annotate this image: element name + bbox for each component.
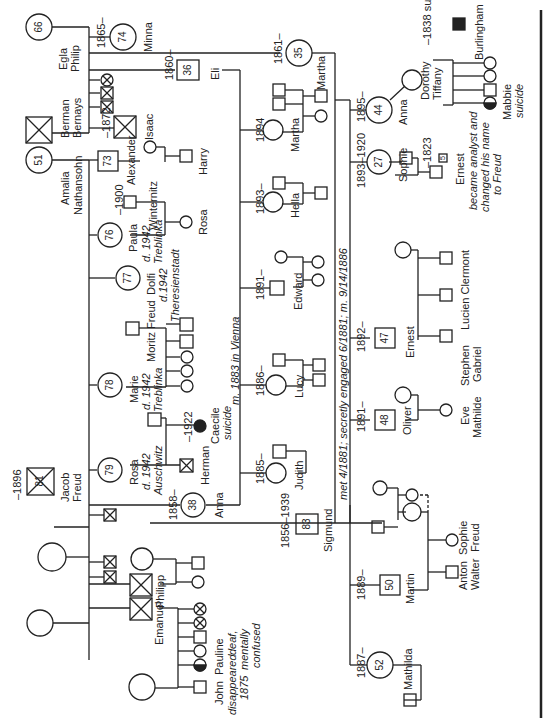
- label-walter: Walter: [470, 559, 481, 590]
- label-paula: Paula: [128, 224, 139, 252]
- age-dolfi: 77: [123, 272, 133, 283]
- label-tiffany: Tiffany: [432, 68, 443, 100]
- age-jacob: 81: [35, 475, 45, 486]
- label-marie: Marie: [129, 375, 140, 403]
- note-caecile: suicide: [222, 406, 233, 440]
- label-harry: Harry: [198, 148, 209, 175]
- age-mathilda: 52: [375, 659, 385, 670]
- years-anna-f: 1858–: [168, 489, 179, 520]
- sigmund-marriage-note: met 4/1881; secretly engaged 6/1881; m. …: [338, 248, 349, 500]
- label-isaac: Isaac: [144, 114, 155, 140]
- note-paula-2: Treblinka: [153, 220, 164, 264]
- years-martha: 1861–: [273, 33, 284, 64]
- label-martha: Martha: [316, 56, 327, 90]
- label-john: John: [214, 681, 225, 705]
- age-alexander: 73: [103, 155, 113, 166]
- years-winternitz: –1900: [114, 184, 125, 215]
- years-edward: 1891–: [255, 269, 266, 300]
- years-eli: 1860–: [164, 49, 175, 80]
- label-clermont: Lucien Clermont: [460, 250, 471, 330]
- label-freud: Freud: [72, 473, 83, 502]
- note-john-1: disappeared: [227, 654, 238, 715]
- note-pauline-1: deaf,: [227, 631, 238, 655]
- years-minna: 1865–: [96, 17, 107, 48]
- years-sigmund: 1856–1939: [280, 493, 291, 548]
- label-gabriel: Gabriel: [472, 347, 483, 382]
- label-amalia: Amalia: [60, 171, 71, 205]
- label-pauline: Pauline: [214, 638, 225, 675]
- years-martin: 1889–: [356, 569, 367, 600]
- note-ernest-1: became analyst and: [468, 112, 479, 210]
- label-philip: Philip: [70, 45, 81, 72]
- note-john-2: 1875: [239, 676, 250, 700]
- label-anton: Anton: [458, 561, 469, 590]
- years-isaac: –1872: [101, 107, 112, 138]
- age-martha: 35: [294, 47, 304, 58]
- label-dolfi: Dolfi: [146, 273, 157, 295]
- label-dorothy: Dorothy: [420, 61, 431, 100]
- years-jacob: –1896: [12, 469, 23, 500]
- age-martin: 50: [385, 579, 395, 590]
- label-caecile: Caecile: [210, 407, 221, 444]
- label-sophie: Sophie: [398, 148, 409, 182]
- label-jacob: Jacob: [60, 473, 71, 502]
- age-minna: 74: [118, 31, 128, 42]
- note-marie-1: d. 1942: [141, 373, 152, 410]
- years-sophie: 1893–1920: [356, 133, 367, 188]
- years-ernest: 1892–: [356, 321, 367, 352]
- years-anna: 1895–: [356, 91, 367, 122]
- label-ernest: Ernest: [405, 326, 416, 358]
- note-marie-2: Treblinka: [153, 368, 164, 412]
- years-mathilda: 1887–: [356, 647, 367, 678]
- years-oliver: 1891–: [356, 401, 367, 432]
- label-mabbie: Mabbie: [502, 84, 513, 120]
- label-ernest-h: Ernest: [455, 153, 466, 185]
- label-martin: Martin: [405, 573, 416, 604]
- label-rosa: Rosa: [129, 459, 140, 485]
- note-ernest-3: to Freud: [492, 154, 503, 195]
- label-hella: Hella: [290, 193, 301, 218]
- note-pauline-3: confused: [251, 623, 262, 668]
- label-berman: Berman: [60, 99, 71, 138]
- years-lucy: 1886–: [255, 365, 266, 396]
- label-nathansohn: Nathansohn: [73, 156, 84, 215]
- note-pauline-2: mentally: [239, 629, 250, 670]
- label-emanuel: Emanuel: [154, 602, 165, 645]
- age-oliver: 48: [380, 414, 390, 425]
- years-martha-e: 1894: [255, 118, 266, 142]
- label-lucy: Lucy: [294, 375, 305, 398]
- label-bernays: Bernays: [72, 98, 83, 138]
- age-sophie: 27: [374, 156, 384, 167]
- label-sophie-f-2: Freud: [470, 523, 481, 552]
- age-anna: 44: [374, 104, 384, 115]
- label-alexander: Alexander: [126, 135, 137, 185]
- note-paula-1: d. 1942: [141, 225, 152, 262]
- label-burlingham: Burlingham: [474, 4, 485, 60]
- age-sigmund: 83: [302, 518, 312, 529]
- age-egla: 66: [34, 21, 44, 32]
- label-herman: Herman: [200, 446, 211, 485]
- label-judith: Judith: [294, 461, 305, 490]
- label-mathilde: Mathilde: [472, 396, 483, 438]
- age-eli: 36: [183, 64, 193, 75]
- note-mabbie: suicide: [514, 84, 525, 118]
- label-anna-f: Anna: [214, 492, 225, 518]
- years-ernest-h: –1823: [422, 137, 433, 168]
- years-hella: 1893–: [255, 183, 266, 214]
- age-rosa: 79: [105, 464, 115, 475]
- label-eli: Eli: [210, 68, 221, 80]
- label-rosa-w: Rosa: [198, 209, 209, 235]
- age-amalia: 51: [34, 154, 44, 165]
- eli-marriage-note: m. 1883 in Vienna: [230, 317, 241, 405]
- label-oliver: Oliver: [402, 406, 413, 435]
- note-dolfi-1: d.1942: [158, 268, 169, 302]
- label-minna: Minna: [143, 22, 154, 52]
- note-rosa-2: Auschwitz: [153, 445, 164, 495]
- label-martha-e: Martha: [290, 118, 301, 152]
- age-ernest-h: 5: [438, 156, 448, 160]
- age-marie: 78: [105, 379, 115, 390]
- label-egla: Egla: [58, 48, 69, 70]
- genogram-canvas: 66 74 36 35 51 73 76 77 78 79 38 81 83 4…: [0, 0, 551, 728]
- label-stephen: Stephen: [460, 345, 471, 386]
- label-moritz: Moritz Freud: [146, 300, 157, 362]
